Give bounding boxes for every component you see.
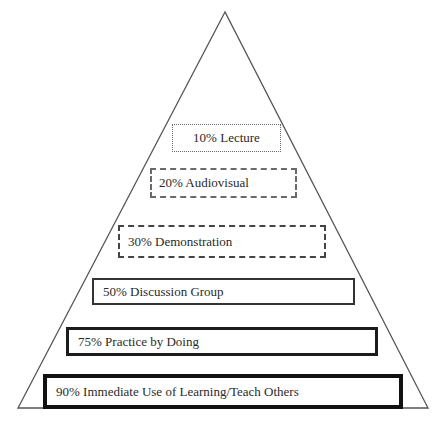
tier-label-audiovisual: 20% Audiovisual [159, 175, 249, 191]
tier-teach-others: 90% Immediate Use of Learning/Teach Othe… [43, 374, 403, 409]
tier-discussion-group: 50% Discussion Group [92, 278, 355, 305]
tier-audiovisual: 20% Audiovisual [150, 168, 297, 198]
tier-label-demonstration: 30% Demonstration [128, 234, 232, 250]
tier-practice-by-doing: 75% Practice by Doing [66, 327, 378, 356]
tier-demonstration: 30% Demonstration [118, 225, 326, 258]
tier-label-lecture: 10% Lecture [193, 130, 260, 146]
tier-label-teach-others: 90% Immediate Use of Learning/Teach Othe… [56, 384, 299, 400]
tier-lecture: 10% Lecture [172, 124, 281, 152]
tier-label-practice-by-doing: 75% Practice by Doing [78, 334, 199, 350]
pyramid-outline [0, 0, 447, 438]
tier-label-discussion-group: 50% Discussion Group [103, 284, 224, 300]
